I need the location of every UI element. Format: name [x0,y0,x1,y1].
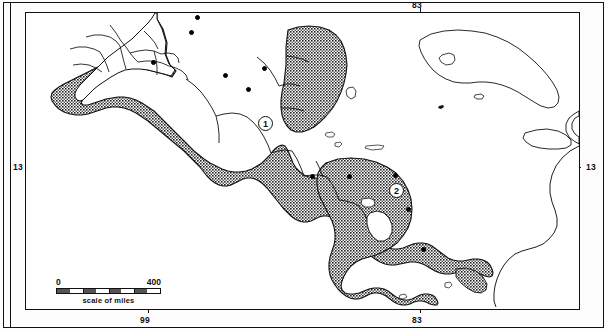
jamaica-outline [523,129,571,149]
small-island-speck-a [438,105,444,109]
city-dot [223,73,228,78]
city-dot [189,30,194,35]
colombia-coast-outline [494,146,579,307]
panama-islet-b [399,294,407,299]
cuba-outline [419,30,559,108]
cayman-islands-outline [474,94,484,99]
belize-cayes-outline [325,132,335,137]
city-dot [347,174,352,179]
city-dot [310,174,315,179]
city-dot [195,15,200,20]
map-figure: 83 99 83 13 13 [0,0,607,332]
honduras-bay-islands-outline [365,145,384,150]
tick-label-left-13: 13 [13,163,23,172]
region-marker-1[interactable]: 1 [258,116,273,131]
scale-min-label: 0 [56,277,61,288]
tick-label-right-13: 13 [586,163,596,172]
map-neatline: 1 2 0 400 s [25,12,580,310]
scale-bar-graphic [56,288,161,294]
outer-frame-left-rule [10,2,11,328]
scale-caption: scale of miles [56,296,161,305]
tick-label-bottom-83: 83 [412,316,422,325]
scale-max-label: 400 [147,277,161,288]
region-marker-2[interactable]: 2 [389,183,404,198]
shaded-yucatan [281,26,347,132]
offshore-caye-speck [335,142,342,147]
city-dot [246,87,251,92]
city-dot [421,247,426,252]
tick-label-bottom-99: 99 [140,316,150,325]
scale-bar: 0 400 scale of miles [56,277,161,305]
city-dot [262,66,267,71]
lake-managua [361,198,375,207]
city-dot [406,207,411,212]
panama-islet-a [445,282,452,288]
map-drawing [26,13,579,309]
cozumel-outline [346,87,356,99]
northern-mexico-outline [75,13,175,101]
city-dot [151,60,156,65]
city-dot [393,173,398,178]
